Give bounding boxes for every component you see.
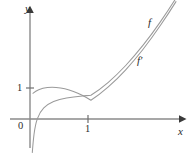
x-tick-label-one: 1 [85, 124, 90, 135]
origin-label: 0 [18, 121, 23, 132]
y-axis-label: y [25, 3, 30, 14]
x-axis-arrowhead [179, 115, 187, 123]
curve-f-prime [32, 0, 175, 152]
plot-svg [0, 0, 195, 153]
function-graph-figure: y x 0 1 1 f f′ [0, 0, 195, 153]
curve-label-f-prime: f′ [137, 55, 142, 66]
x-axis-label: x [178, 126, 183, 137]
curve-label-f: f [148, 17, 151, 28]
y-tick-label-one: 1 [17, 83, 22, 94]
